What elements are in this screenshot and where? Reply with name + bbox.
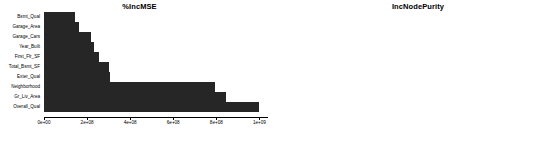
axis-line xyxy=(44,117,268,118)
panel-inc-mse: %IncMSE Bsmt_QualGarage_AreaGarage_CarsY… xyxy=(0,0,279,144)
bar-category-label: Bsmt_Qual xyxy=(17,15,40,20)
bar xyxy=(44,32,91,42)
bar-row: Gr_Liv_Area xyxy=(44,92,268,102)
bar xyxy=(44,42,94,52)
bar-category-label: Total_Bsmt_SF xyxy=(9,65,40,70)
bar-row: Overall_Qual xyxy=(44,102,268,112)
bar-row: Garage_Area xyxy=(44,22,268,32)
x-axis-inc-mse: 0e+002e+084e+086e+088e+081e+09 xyxy=(44,117,268,129)
bar xyxy=(44,62,109,72)
bar-row: First_Flr_SF xyxy=(44,52,268,62)
axis-tick-label: 6e+08 xyxy=(167,121,180,126)
panel-title-inc-node-purity: IncNodePurity xyxy=(279,2,557,11)
axis-tick-label: 4e+08 xyxy=(124,121,137,126)
bar-category-label: Garage_Area xyxy=(12,25,40,30)
axis-tick-label: 1e+09 xyxy=(253,121,266,126)
bar xyxy=(44,92,226,102)
bar xyxy=(44,72,110,82)
bar xyxy=(44,52,99,62)
bar-row: Total_Bsmt_SF xyxy=(44,62,268,72)
bar xyxy=(44,22,79,32)
panel-title-inc-mse: %IncMSE xyxy=(0,2,279,11)
bar-category-label: Garage_Cars xyxy=(12,35,40,40)
bar-category-label: Year_Built xyxy=(19,45,40,50)
bar-row: Bsmt_Qual xyxy=(44,12,268,22)
bar-category-label: Overall_Qual xyxy=(13,105,40,110)
axis-tick-label: 0e+00 xyxy=(38,121,51,126)
panel-inc-node-purity: IncNodePurity Garage_AreaYear_BuiltFirst… xyxy=(279,0,557,144)
plot-area-inc-mse: Bsmt_QualGarage_AreaGarage_CarsYear_Buil… xyxy=(44,12,268,112)
bar-category-label: Gr_Liv_Area xyxy=(14,95,40,100)
axis-tick-label: 2e+08 xyxy=(81,121,94,126)
bar-row: Garage_Cars xyxy=(44,32,268,42)
bar-category-label: Neighborhood xyxy=(11,85,40,90)
variable-importance-figure: %IncMSE Bsmt_QualGarage_AreaGarage_CarsY… xyxy=(0,0,557,144)
bar-category-label: Exter_Qual xyxy=(17,75,40,80)
bar-category-label: First_Flr_SF xyxy=(15,55,40,60)
bar xyxy=(44,102,259,112)
bar-row: Year_Built xyxy=(44,42,268,52)
bar-row: Neighborhood xyxy=(44,82,268,92)
bar xyxy=(44,82,215,92)
bar xyxy=(44,12,75,22)
axis-tick-label: 8e+08 xyxy=(210,121,223,126)
bar-row: Exter_Qual xyxy=(44,72,268,82)
